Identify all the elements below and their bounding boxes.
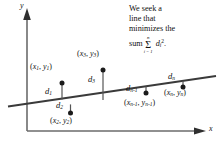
least-squares-figure: y x We seek a line that minimizes the su… <box>0 0 223 144</box>
data-point-1 <box>60 81 65 86</box>
note-line-2: line that <box>129 14 156 23</box>
data-point-3 <box>101 68 106 73</box>
summation-symbol: nΣi = 1 <box>144 35 153 54</box>
note-term-period: . <box>164 39 166 48</box>
paren-close: ) <box>183 88 186 97</box>
summation-lower-limit: i = 1 <box>144 49 153 54</box>
note-sum-word: sum <box>129 39 143 48</box>
note-line-3: minimizes the <box>129 24 175 33</box>
paren-close: ) <box>49 62 52 71</box>
d-sub: n <box>172 75 175 81</box>
paren-close: ) <box>152 98 155 107</box>
distance-label-dn: dn <box>168 72 175 82</box>
distance-label-d1: d1 <box>45 87 52 97</box>
coordinate-label-1: (x1, y1) <box>30 63 52 72</box>
d-sub: 1 <box>49 90 52 96</box>
distance-label-d3: d3 <box>88 75 95 85</box>
note-line-1: We seek a <box>129 4 162 13</box>
distance-label-dn-1: dn-1 <box>126 84 138 94</box>
d-sub: 3 <box>92 78 95 84</box>
paren-close: ) <box>96 49 99 58</box>
data-point-n-minus-1 <box>144 91 149 96</box>
x-sub: n-1 <box>130 101 137 107</box>
distance-label-d2: d2 <box>56 101 63 111</box>
data-point-2 <box>68 111 73 116</box>
y-axis-arrowhead <box>23 8 31 20</box>
paren-close: ) <box>69 116 72 125</box>
d-sub: 2 <box>60 104 63 110</box>
coordinate-label-2: (x2, y2) <box>50 117 72 126</box>
coordinate-label-3: (x3, y3) <box>77 50 99 59</box>
explanatory-note: We seek a line that minimizes the sumnΣi… <box>129 4 221 54</box>
y-axis-label: y <box>20 2 24 10</box>
x-axis-arrowhead <box>194 127 206 134</box>
d-sub: n-1 <box>130 87 137 93</box>
coordinate-label-n: (xn, yn) <box>164 89 186 98</box>
coordinate-label-n-minus-1: (xn-1, yn-1) <box>124 99 155 108</box>
sigma-glyph: Σ <box>144 40 153 49</box>
x-axis-label: x <box>209 125 213 133</box>
